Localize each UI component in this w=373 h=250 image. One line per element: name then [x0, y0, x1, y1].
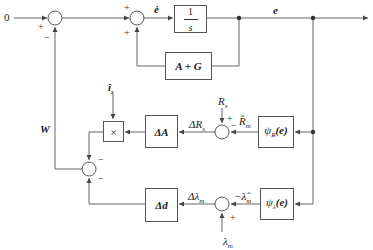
sign-jr-right: − [231, 121, 237, 131]
psi-lambda-block: ψλ(e) [260, 188, 294, 220]
psi-r-block: ψR(e) [258, 116, 294, 148]
sign-j2-input: + [124, 3, 130, 13]
sign-j3-top: − [98, 155, 104, 165]
sign-jl-bottom: + [230, 213, 236, 223]
input-zero-label: 0 [4, 12, 10, 23]
e-dot-label: ė [154, 4, 159, 15]
delta-d-label: Δd [155, 199, 167, 211]
integrator-block: 1 s [174, 5, 207, 33]
multiplier-block: × [103, 121, 124, 142]
sign-j2-feedback: + [124, 28, 130, 38]
delta-d-block: Δd [145, 188, 178, 222]
feedback-label: A + G [175, 60, 201, 72]
integrator-denominator: s [189, 22, 193, 33]
psi-r-label: ψR(e) [264, 124, 287, 139]
r-hat-label: R̂m [239, 116, 251, 130]
feedback-block-a-plus-g: A + G [165, 52, 212, 80]
integrator-numerator: 1 [188, 6, 193, 17]
delta-a-block: ΔA [145, 115, 178, 148]
sign-j1-feedback: − [44, 33, 50, 43]
e-label: e [273, 5, 278, 16]
rs-label: Rs [218, 96, 227, 110]
lambda-m-label: λm [223, 236, 233, 250]
sign-j3-bottom: − [98, 174, 104, 184]
i-hat-label: îs [108, 82, 114, 96]
diagram-wires [0, 0, 373, 250]
block-diagram: 1 s A + G × ΔA ψR(e) Δd ψλ(e) 0 ė e W îs… [0, 0, 373, 250]
multiply-icon: × [110, 126, 116, 138]
delta-rs-label: ΔRs [189, 119, 205, 133]
w-label: W [40, 124, 50, 135]
delta-a-label: ΔA [154, 126, 168, 138]
sign-j1-input: + [38, 22, 44, 32]
delta-lambda-label: Δλm [188, 191, 204, 205]
neg-lambda-hat-label: −λ̂m [234, 191, 251, 205]
psi-lambda-label: ψλ(e) [266, 196, 288, 211]
